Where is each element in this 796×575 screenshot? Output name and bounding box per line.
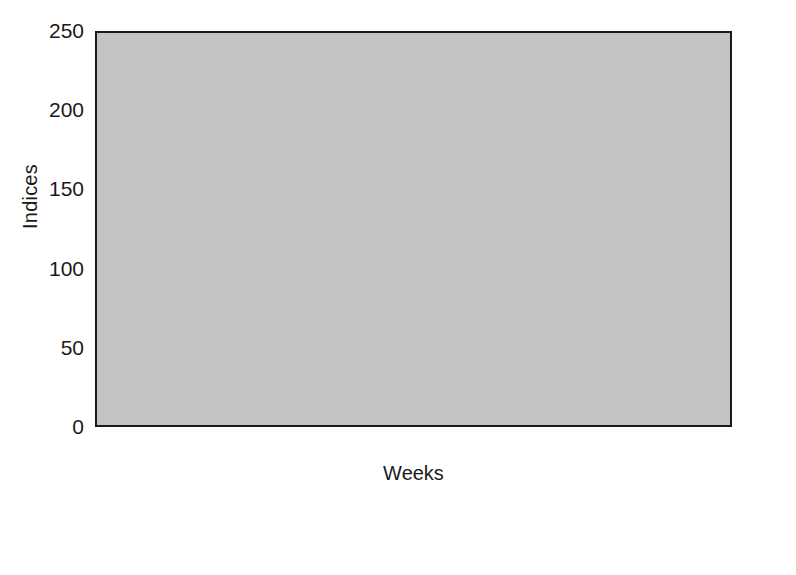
y-tick-label: 100 <box>20 258 84 279</box>
chart-legend <box>96 500 656 562</box>
y-tick-label: 0 <box>20 416 84 437</box>
y-tick-label: 250 <box>20 20 84 41</box>
bars-container <box>97 33 730 425</box>
y-tick-label: 50 <box>20 337 84 358</box>
y-tick-label: 150 <box>20 178 84 199</box>
bar-chart-figure: Indices 050100150200250 Weeks <box>0 0 796 575</box>
x-axis-title: Weeks <box>95 462 732 485</box>
plot-area <box>95 31 732 427</box>
y-tick-label: 200 <box>20 99 84 120</box>
y-axis-tick-labels: 050100150200250 <box>20 0 84 575</box>
x-axis-tick-labels <box>95 432 732 462</box>
